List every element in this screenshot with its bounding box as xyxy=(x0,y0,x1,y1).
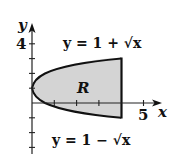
region-label: R xyxy=(76,79,89,97)
lower-curve-equation: y = 1 − √x xyxy=(51,132,131,148)
x-tick-label-5: 5 xyxy=(138,106,148,124)
x-axis-label: x xyxy=(157,103,168,121)
y-axis-label: y xyxy=(17,16,28,34)
region-diagram: y x 4 5 R y = 1 + √x y = 1 − √x xyxy=(0,0,178,154)
upper-curve-equation: y = 1 + √x xyxy=(62,35,142,51)
y-tick-label-4: 4 xyxy=(16,35,26,53)
